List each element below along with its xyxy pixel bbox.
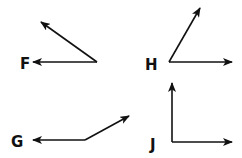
ray-arrow-icon <box>169 8 200 62</box>
angle-label: H <box>145 56 158 74</box>
angle-label: J <box>149 136 156 154</box>
ray-arrow-icon <box>41 22 97 62</box>
angle-f: F <box>20 22 97 73</box>
angle-j: J <box>149 83 232 154</box>
angles-diagram: FHGJ <box>0 0 242 158</box>
angle-h: H <box>145 8 232 74</box>
angle-g: G <box>11 116 129 151</box>
ray-arrow-icon <box>85 116 129 140</box>
angle-label: F <box>20 55 30 73</box>
angle-label: G <box>11 133 23 151</box>
